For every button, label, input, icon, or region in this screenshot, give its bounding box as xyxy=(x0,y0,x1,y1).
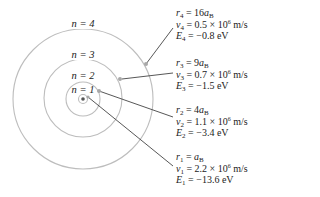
energy-n3: E3 = −1.5 eV xyxy=(176,80,248,92)
info-block-n2: r2 = 4aB v2 = 1.1 × 106 m/s E2 = −3.4 eV xyxy=(176,104,248,139)
energy-n1: E1 = −13.6 eV xyxy=(176,174,248,186)
radius-n4: r4 = 16aB xyxy=(176,7,248,19)
label-n4: n = 4 xyxy=(71,18,96,29)
velocity-n3: v3 = 0.7 × 106 m/s xyxy=(176,69,248,81)
info-block-n4: r4 = 16aB v4 = 0.5 × 106 m/s E4 = −0.8 e… xyxy=(176,7,248,42)
marker-n1 xyxy=(86,95,89,98)
marker-n3 xyxy=(118,77,122,81)
radius-n2: r2 = 4aB xyxy=(176,104,248,116)
energy-n2: E2 = −3.4 eV xyxy=(176,127,248,139)
velocity-n1: v1 = 2.2 × 106 m/s xyxy=(176,163,248,175)
radius-n3: r3 = 9aB xyxy=(176,57,248,69)
radius-n1: r1 = aB xyxy=(176,151,248,163)
label-n2: n = 2 xyxy=(71,70,96,81)
energy-n4: E4 = −0.8 eV xyxy=(176,30,248,42)
info-block-n3: r3 = 9aB v3 = 0.7 × 106 m/s E3 = −1.5 eV xyxy=(176,57,248,92)
velocity-n4: v4 = 0.5 × 106 m/s xyxy=(176,19,248,31)
leader-n1 xyxy=(88,97,173,166)
nucleus xyxy=(81,97,85,101)
leader-n2 xyxy=(99,91,173,117)
leader-n4 xyxy=(146,28,173,64)
leader-n3 xyxy=(122,73,173,79)
label-n1: n = 1 xyxy=(71,84,96,95)
marker-n2 xyxy=(97,89,101,93)
info-block-n1: r1 = aB v1 = 2.2 × 106 m/s E1 = −13.6 eV xyxy=(176,151,248,186)
marker-n4 xyxy=(144,62,148,66)
velocity-n2: v2 = 1.1 × 106 m/s xyxy=(176,116,248,128)
label-n3: n = 3 xyxy=(71,49,96,60)
